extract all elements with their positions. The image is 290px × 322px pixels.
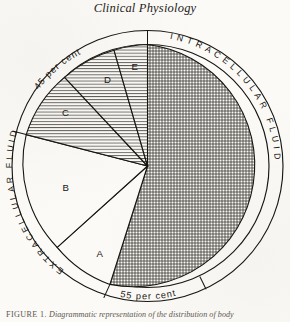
- slice-label-e: E: [132, 61, 138, 72]
- slice-label-b: B: [63, 182, 69, 193]
- pie-chart-svg: A B C D E INTRACELLULAR FLUID EXTRACELLU…: [0, 0, 290, 310]
- figure-caption-text: Diagrammatic representation of the distr…: [49, 310, 234, 319]
- figure-caption: FIGURE 1. Diagrammatic representation of…: [6, 310, 290, 319]
- slice-label-d: D: [104, 74, 111, 85]
- scanned-page: Clinical Physiology: [0, 0, 290, 322]
- slice-label-a: A: [97, 248, 104, 259]
- figure-caption-label: FIGURE 1.: [6, 310, 47, 319]
- slice-label-c: C: [62, 107, 69, 118]
- figure-pie-chart: A B C D E INTRACELLULAR FLUID EXTRACELLU…: [0, 0, 290, 310]
